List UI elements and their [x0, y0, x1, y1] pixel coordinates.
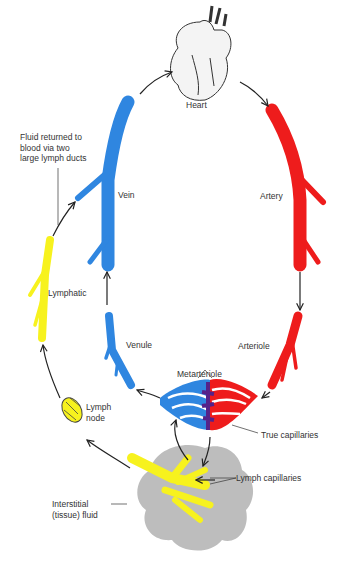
label-heart: Heart	[186, 100, 207, 111]
label-fluid-returned: Fluid returned to blood via two large ly…	[20, 132, 87, 164]
lymphatic-icon	[30, 240, 50, 338]
label-lymphatic: Lymphatic	[48, 288, 86, 299]
arrow-node-to-lymphatic	[43, 345, 60, 398]
label-artery: Artery	[260, 191, 283, 202]
arteriole-icon	[272, 316, 298, 385]
label-arteriole: Arteriole	[238, 341, 270, 352]
venule-icon	[106, 316, 131, 385]
arrow-tissue-to-node	[87, 440, 130, 468]
label-venule: Venule	[126, 340, 152, 351]
label-true-capillaries: True capillaries	[261, 430, 318, 441]
arrow-heart-to-artery	[240, 82, 268, 106]
label-vein: Vein	[118, 190, 135, 201]
artery-icon	[272, 110, 323, 265]
arrow-lymphatic-to-vein	[53, 202, 75, 236]
heart-illustration	[171, 6, 231, 100]
label-lymph-node: Lymph node	[86, 402, 111, 423]
lymph-node-icon	[58, 394, 87, 426]
vein-icon	[78, 102, 128, 265]
leader-true-capillaries	[232, 425, 258, 433]
label-interstitial-fluid: Interstitial (tissue) fluid	[52, 499, 98, 520]
arrow-capillaries-to-venule	[137, 390, 160, 398]
arrow-vein-to-heart	[140, 72, 172, 94]
label-lymph-capillaries: Lymph capillaries	[236, 473, 301, 484]
label-metarteriole: Metarteriole	[177, 369, 222, 380]
arrow-arteriole-to-capillaries	[262, 392, 270, 398]
